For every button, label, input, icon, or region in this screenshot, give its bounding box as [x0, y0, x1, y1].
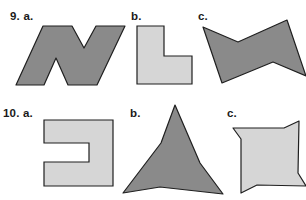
shapes-canvas: [0, 0, 306, 200]
shape-9c-bowtie-polygon: [203, 20, 306, 83]
shape-9a-n-polygon: [16, 26, 125, 85]
shape-10b-star-polygon: [123, 105, 223, 194]
shape-9b-l-polygon: [137, 26, 192, 84]
shape-10c-pinwheel-polygon: [233, 121, 306, 193]
shape-10a-c-polygon: [44, 120, 113, 186]
